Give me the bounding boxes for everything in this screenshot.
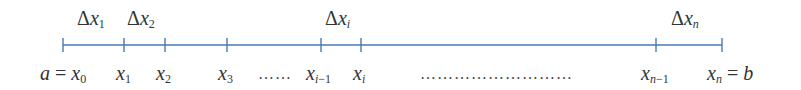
point-label-a-x0: aa = = x0 [40, 63, 86, 85]
interval-label-i: Δxi [325, 8, 350, 30]
partition-diagram: Δx1 Δx2 Δxi Δxn aa = = x0 x1 x2 x3 …… xi… [0, 0, 801, 90]
point-label-xi: xi [353, 63, 365, 85]
point-label-x1: x1 [116, 63, 131, 85]
ellipsis-short: …… [258, 66, 292, 82]
interval-label-2: Δx2 [127, 8, 155, 30]
point-label-xn-1: xn−1 [641, 63, 669, 85]
point-label-x2: x2 [156, 63, 171, 85]
ellipsis-long: ……………………… [420, 66, 573, 82]
interval-label-1: Δx1 [77, 8, 105, 30]
point-label-xi-1: xi−1 [306, 63, 331, 85]
interval-label-n: Δxn [671, 8, 699, 30]
point-label-x3: x3 [218, 63, 233, 85]
point-label-xn-b: xn = b [707, 63, 753, 85]
